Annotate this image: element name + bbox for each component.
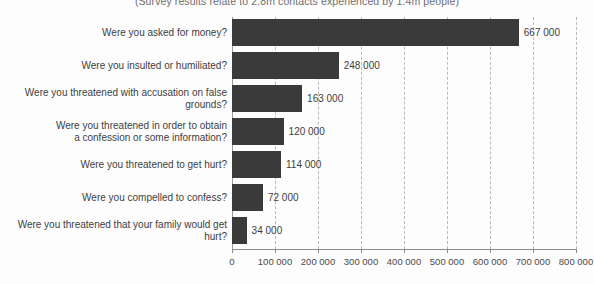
category-label: Were you threatened that your family wou… bbox=[2, 217, 232, 244]
x-tick-400000 bbox=[404, 249, 405, 253]
x-tick-label: 300 000 bbox=[344, 256, 378, 267]
x-tick-800000 bbox=[576, 249, 577, 253]
bar-value-label: 34 000 bbox=[247, 217, 283, 244]
x-tick-label: 0 bbox=[229, 256, 234, 267]
x-tick-0 bbox=[232, 249, 233, 253]
x-tick-500000 bbox=[447, 249, 448, 253]
bar-value-label: 248 000 bbox=[339, 52, 380, 79]
bar-value-label: 163 000 bbox=[302, 85, 343, 112]
bar-row: Were you threatened in order to obtaina … bbox=[0, 118, 594, 145]
bar-value-label: 114 000 bbox=[281, 151, 321, 178]
bar bbox=[232, 217, 247, 244]
x-tick-label: 100 000 bbox=[258, 256, 292, 267]
bar-value-label: 667 000 bbox=[519, 19, 560, 46]
bar bbox=[232, 85, 302, 112]
x-tick-label: 700 000 bbox=[516, 256, 550, 267]
x-tick-200000 bbox=[318, 249, 319, 253]
bar bbox=[232, 118, 284, 145]
bar bbox=[232, 19, 519, 46]
bar bbox=[232, 184, 263, 211]
x-tick-600000 bbox=[490, 249, 491, 253]
bar-chart-plot-area: 0100 000200 000300 000400 000500 000600 … bbox=[0, 0, 594, 284]
bar-row: Were you asked for money?667 000 bbox=[0, 19, 594, 46]
x-tick-label: 200 000 bbox=[301, 256, 335, 267]
bar-value-label: 72 000 bbox=[263, 184, 299, 211]
category-label: Were you threatened to get hurt? bbox=[2, 151, 232, 178]
bar-row: Were you threatened to get hurt?114 000 bbox=[0, 151, 594, 178]
bar-value-label: 120 000 bbox=[284, 118, 325, 145]
category-label: Were you asked for money? bbox=[2, 19, 232, 46]
bar-row: Were you compelled to confess?72 000 bbox=[0, 184, 594, 211]
x-tick-700000 bbox=[533, 249, 534, 253]
bar-row: Were you threatened with accusation on f… bbox=[0, 85, 594, 112]
category-label: Were you insulted or humiliated? bbox=[2, 52, 232, 79]
bar bbox=[232, 151, 281, 178]
category-label: Were you threatened with accusation on f… bbox=[2, 85, 232, 112]
bar bbox=[232, 52, 339, 79]
bar-row: Were you threatened that your family wou… bbox=[0, 217, 594, 244]
x-tick-label: 600 000 bbox=[473, 256, 507, 267]
category-label: Were you threatened in order to obtaina … bbox=[2, 118, 232, 145]
x-tick-label: 400 000 bbox=[387, 256, 421, 267]
x-tick-label: 800 000 bbox=[559, 256, 593, 267]
category-label: Were you compelled to confess? bbox=[2, 184, 232, 211]
bar-row: Were you insulted or humiliated?248 000 bbox=[0, 52, 594, 79]
x-tick-label: 500 000 bbox=[430, 256, 464, 267]
x-tick-300000 bbox=[361, 249, 362, 253]
x-tick-100000 bbox=[275, 249, 276, 253]
